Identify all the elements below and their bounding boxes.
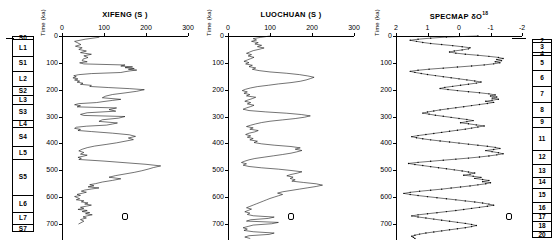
curve-specmap-panel [0, 0, 558, 249]
figure-root: S0L1S1L2S2L3S3L4S4L5S5L6L7S7234567891112… [0, 0, 558, 249]
symbol-marker-2 [506, 213, 512, 220]
